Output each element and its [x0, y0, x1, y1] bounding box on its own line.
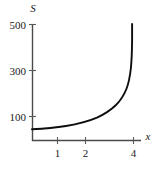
curve-series-S [32, 24, 132, 129]
chart-figure: 500 300 100 1 2 4 S x [0, 0, 163, 169]
y-tick-label-500: 500 [10, 19, 27, 31]
y-tick-label-300: 300 [10, 65, 27, 77]
x-tick-label-1: 1 [55, 147, 61, 159]
x-tick-label-4: 4 [131, 147, 137, 159]
y-tick-label-100: 100 [10, 111, 27, 123]
y-axis-label: S [30, 2, 36, 14]
chart-plot-area: 500 300 100 1 2 4 S x [0, 0, 163, 169]
x-axis-label: x [145, 130, 151, 142]
x-tick-label-2: 2 [83, 147, 89, 159]
